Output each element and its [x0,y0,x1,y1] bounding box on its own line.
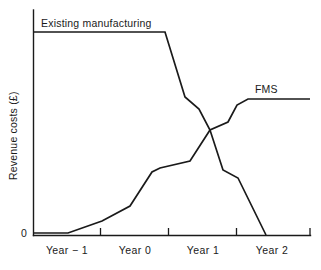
fms-label: FMS [255,83,278,95]
x-tick-label-year-1: Year 1 [187,244,219,256]
existing-manufacturing-line [34,32,266,235]
revenue-costs-line-chart: Revenue costs (£) 0 Year − 1 Year 0 Year… [0,0,321,270]
series-fms [34,99,310,233]
x-axis-ticks [101,228,311,236]
axes-group [34,10,311,236]
y-axis-title-group: Revenue costs (£) [7,91,19,180]
x-tick-label-year-minus-1: Year − 1 [46,244,88,256]
existing-manufacturing-label: Existing manufacturing [41,17,152,29]
series-existing-manufacturing [34,32,266,235]
series-labels: Existing manufacturing FMS [41,17,278,95]
x-axis-tick-labels: Year − 1 Year 0 Year 1 Year 2 [46,244,288,256]
y-axis-title: Revenue costs (£) [7,91,19,180]
fms-line [34,99,310,233]
y-tick-label-0: 0 [21,227,27,239]
x-tick-label-year-0: Year 0 [119,244,151,256]
chart-canvas: Revenue costs (£) 0 Year − 1 Year 0 Year… [0,0,321,270]
x-tick-label-year-2: Year 2 [256,244,288,256]
